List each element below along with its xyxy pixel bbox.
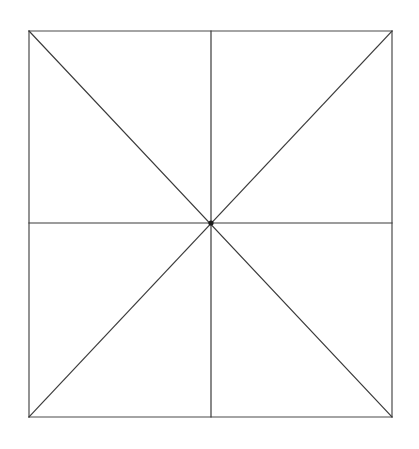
- geometric-figure: [0, 0, 419, 449]
- figure-canvas: [0, 0, 419, 449]
- center-point-dot: [208, 220, 213, 225]
